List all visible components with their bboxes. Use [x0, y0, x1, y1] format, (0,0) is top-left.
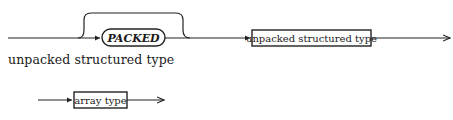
diagram-unpacked-structured-type: array type: [38, 92, 164, 108]
diagram-packed-structured-type: PACKED unpacked structured type: [8, 13, 450, 46]
array-type-label: array type: [74, 95, 126, 106]
diagram-caption: unpacked structured type: [8, 52, 174, 67]
packed-keyword: PACKED: [106, 32, 160, 45]
unpacked-structured-type-label: unpacked structured type: [246, 33, 377, 44]
